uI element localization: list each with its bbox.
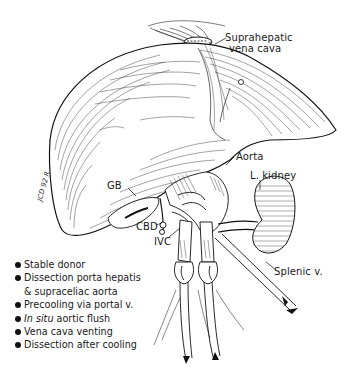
step-item: In situ aortic flush bbox=[15, 312, 141, 325]
step-text: Dissection porta hepatis bbox=[24, 272, 141, 283]
cannula-left-tube bbox=[180, 282, 186, 360]
step-item: Dissection porta hepatis & supraceliac a… bbox=[15, 271, 141, 298]
step-text-italic: In situ bbox=[24, 313, 53, 324]
step-text: Precooling via portal v. bbox=[24, 299, 133, 310]
bullet-icon bbox=[15, 262, 21, 268]
label-vena-cava-line2: vena cava bbox=[225, 43, 281, 54]
step-text: Dissection after cooling bbox=[24, 339, 137, 350]
cannula-right-cuff bbox=[198, 262, 217, 284]
bullet-icon bbox=[15, 302, 21, 308]
aorta-vessel bbox=[200, 222, 214, 262]
label-suprahepatic-vena-cava: Suprahepatic vena cava bbox=[225, 32, 293, 54]
flow-arrows bbox=[183, 296, 298, 364]
left-kidney bbox=[253, 176, 295, 253]
step-text: aortic flush bbox=[53, 313, 110, 324]
label-l-kidney: L. kidney bbox=[250, 170, 296, 181]
label-splenic-v: Splenic v. bbox=[274, 266, 323, 277]
cannulas bbox=[154, 262, 244, 360]
step-text: Vena cava venting bbox=[24, 326, 113, 337]
step-text-continuation: & supraceliac aorta bbox=[24, 285, 141, 298]
step-text: Stable donor bbox=[24, 259, 85, 270]
label-gb: GB bbox=[107, 180, 122, 191]
step-item: Dissection after cooling bbox=[15, 338, 141, 351]
step-item: Stable donor bbox=[15, 258, 141, 271]
bullet-icon bbox=[15, 329, 21, 335]
step-item: Precooling via portal v. bbox=[15, 298, 141, 311]
step-item: Vena cava venting bbox=[15, 325, 141, 338]
label-ivc: IVC bbox=[154, 236, 171, 247]
label-cbd: CBD bbox=[136, 221, 158, 232]
label-suprahepatic-line1: Suprahepatic bbox=[225, 32, 293, 43]
bullet-icon bbox=[15, 316, 21, 322]
procedure-steps-list: Stable donor Dissection porta hepatis & … bbox=[15, 258, 141, 352]
cannula-left-cuff bbox=[174, 262, 193, 284]
label-aorta: Aorta bbox=[236, 151, 263, 162]
bullet-icon bbox=[15, 275, 21, 281]
bullet-icon bbox=[15, 342, 21, 348]
illustration-canvas: Suprahepatic vena cava Aorta L. kidney G… bbox=[0, 0, 354, 382]
